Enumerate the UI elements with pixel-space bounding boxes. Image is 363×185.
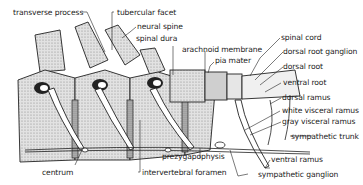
- label-pia-mater: pia mater: [215, 56, 251, 65]
- label-spinal-cord: spinal cord: [281, 33, 321, 42]
- label-transverse-process: transverse process: [13, 8, 83, 17]
- label-white-visceral-ramus: white visceral ramus: [282, 106, 359, 115]
- label-ventral-ramus: ventral ramus: [271, 155, 323, 164]
- label-ventral-root: ventral root: [283, 78, 326, 87]
- label-sympathetic-trunk: sympathetic trunk: [291, 132, 359, 141]
- spinal-cord-tube: [170, 70, 300, 102]
- label-spinal-dura: spinal dura: [136, 34, 177, 43]
- label-intervertebral-foramen: intervertebral foramen: [142, 168, 227, 177]
- label-dorsal-ramus: dorsal ramus: [282, 93, 330, 102]
- label-neural-spine: neural spine: [137, 22, 183, 31]
- label-sympathetic-ganglion: sympathetic ganglion: [258, 170, 338, 179]
- label-arachnoid-membrane: arachnoid membrane: [182, 45, 262, 54]
- label-prezygapophysis: prezygapophysis: [162, 152, 225, 161]
- label-dorsal-root: dorsal root: [283, 62, 323, 71]
- label-dorsal-root-ganglion: dorsal root ganglion: [283, 47, 357, 56]
- spinal-anatomy-diagram: transverse process tubercular facet neur…: [0, 0, 363, 185]
- label-gray-visceral-ramus: gray visceral ramus: [282, 117, 355, 126]
- label-centrum: centrum: [42, 168, 73, 177]
- label-tubercular-facet: tubercular facet: [117, 8, 176, 17]
